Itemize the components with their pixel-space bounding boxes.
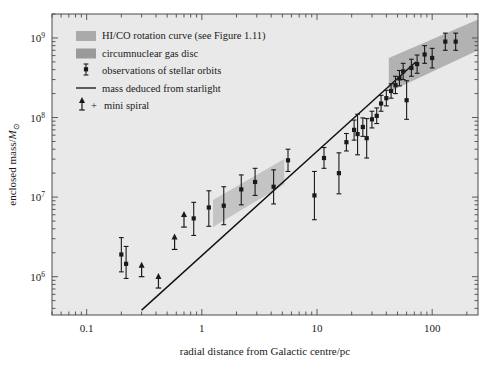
marker-square bbox=[124, 262, 128, 266]
marker-square bbox=[415, 62, 419, 66]
marker-square bbox=[361, 125, 365, 129]
x-tick-label: 10 bbox=[312, 322, 324, 334]
marker-square bbox=[430, 56, 434, 60]
legend-item: HI/CO rotation curve (see Figure 1.11) bbox=[76, 30, 266, 42]
legend-item-label: HI/CO rotation curve (see Figure 1.11) bbox=[102, 30, 266, 42]
x-tick-label: 0.1 bbox=[80, 322, 94, 334]
marker-square bbox=[192, 216, 196, 220]
legend-item-label: mass deduced from starlight bbox=[102, 83, 221, 94]
marker-square bbox=[443, 39, 447, 43]
legend-swatch bbox=[76, 31, 96, 41]
marker-square bbox=[253, 180, 257, 184]
marker-square bbox=[222, 204, 226, 208]
marker-square bbox=[401, 69, 405, 73]
legend-item-label: observations of stellar orbits bbox=[102, 65, 221, 76]
marker-square bbox=[379, 101, 383, 105]
marker-square bbox=[337, 171, 341, 175]
figure-container: 0.1110100106107108109 radial distance fr… bbox=[0, 0, 494, 368]
marker-square bbox=[239, 187, 243, 191]
legend-item: observations of stellar orbits bbox=[84, 64, 222, 76]
marker-square bbox=[286, 158, 290, 162]
marker-square bbox=[207, 205, 211, 209]
marker-square bbox=[355, 132, 359, 136]
marker-square bbox=[409, 66, 413, 70]
marker-square bbox=[322, 156, 326, 160]
marker-square bbox=[344, 140, 348, 144]
marker-square bbox=[312, 193, 316, 197]
marker-square bbox=[119, 252, 123, 256]
marker-square bbox=[352, 128, 356, 132]
legend-marker-square bbox=[84, 67, 88, 71]
marker-square bbox=[393, 83, 397, 87]
legend-item-label: mini spiral bbox=[104, 100, 149, 111]
marker-square bbox=[423, 52, 427, 56]
marker-square bbox=[384, 96, 388, 100]
legend-item-label: circumnuclear gas disc bbox=[102, 48, 199, 59]
legend-plus-icon: + bbox=[91, 100, 97, 111]
marker-square bbox=[389, 89, 393, 93]
x-tick-label: 100 bbox=[424, 322, 441, 334]
x-axis-title: radial distance from Galactic centre/pc bbox=[180, 345, 351, 357]
marker-square bbox=[375, 114, 379, 118]
marker-square bbox=[405, 98, 409, 102]
mass-vs-radius-chart: 0.1110100106107108109 radial distance fr… bbox=[0, 0, 494, 368]
x-tick-label: 1 bbox=[199, 322, 205, 334]
marker-square bbox=[272, 185, 276, 189]
marker-square bbox=[454, 39, 458, 43]
legend-item: circumnuclear gas disc bbox=[76, 48, 199, 59]
marker-square bbox=[370, 117, 374, 121]
marker-square bbox=[365, 136, 369, 140]
legend-swatch bbox=[76, 49, 96, 59]
